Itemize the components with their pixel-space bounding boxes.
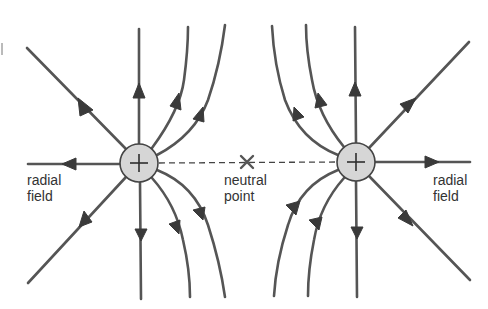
label-line: field: [433, 188, 467, 204]
label-line: neutral: [224, 172, 267, 188]
right-charge: [337, 143, 375, 181]
arrow-icon: [293, 107, 304, 121]
arrow-icon: [349, 82, 361, 96]
arrow-icon: [170, 93, 181, 110]
arrow-icon: [193, 107, 204, 122]
field-line: [306, 25, 344, 147]
neutral-point-label: neutral point: [224, 172, 267, 204]
arrow-icon: [193, 207, 205, 220]
field-line: [272, 26, 338, 155]
field-line: [308, 178, 344, 296]
left-radial-field-label: radial field: [27, 172, 61, 204]
field-diagram: [0, 0, 488, 309]
arrow-icon: [169, 220, 180, 234]
arrow-icon: [79, 211, 92, 227]
label-line: radial: [27, 172, 61, 188]
field-line: [369, 42, 469, 148]
left-charge: [120, 144, 158, 182]
field-line: [157, 25, 225, 155]
arrow-icon: [351, 227, 363, 239]
arrow-icon: [133, 83, 145, 98]
field-line: [27, 48, 126, 149]
label-line: point: [224, 188, 267, 204]
label-line: radial: [433, 172, 467, 188]
field-line: [157, 170, 225, 297]
arrow-icon: [425, 156, 439, 168]
field-line: [152, 178, 190, 297]
field-line: [152, 27, 188, 148]
right-radial-field-label: radial field: [433, 172, 467, 204]
label-line: field: [27, 188, 61, 204]
field-line: [274, 170, 338, 296]
arrow-icon: [62, 158, 76, 170]
arrow-icon: [135, 229, 147, 241]
